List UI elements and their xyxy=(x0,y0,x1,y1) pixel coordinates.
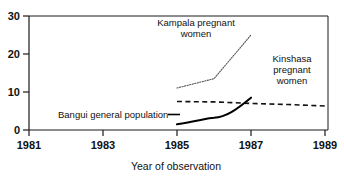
y-tick-label-30: 30 xyxy=(8,10,20,22)
annotation-bangui-line1: Bangui general population xyxy=(58,109,168,120)
x-axis-ticks xyxy=(29,130,325,136)
annotation-bangui: Bangui general population xyxy=(58,109,180,120)
chart-figure: 0 10 20 30 1981 1983 1985 1987 1989 Year… xyxy=(0,0,344,177)
annotation-kampala-line2: women xyxy=(180,28,212,39)
x-tick-label-1981: 1981 xyxy=(17,139,41,151)
x-axis-title: Year of observation xyxy=(131,160,221,172)
annotation-kinshasa-line2: pregnant xyxy=(273,64,311,75)
annotation-kampala: Kampala pregnant women xyxy=(157,17,235,39)
x-tick-label-1987: 1987 xyxy=(239,139,263,151)
y-axis-ticks xyxy=(23,16,29,130)
annotation-kinshasa-line1: Kinshasa xyxy=(272,53,312,64)
series-line-kampala xyxy=(177,35,251,88)
line-chart: 0 10 20 30 1981 1983 1985 1987 1989 Year… xyxy=(0,0,344,177)
x-tick-label-1989: 1989 xyxy=(313,139,337,151)
y-tick-label-20: 20 xyxy=(8,48,20,60)
series-line-kinshasa xyxy=(177,102,325,107)
x-tick-label-1983: 1983 xyxy=(91,139,115,151)
annotation-kampala-line1: Kampala pregnant xyxy=(157,17,235,28)
x-axis-tick-labels: 1981 1983 1985 1987 1989 xyxy=(17,139,337,151)
annotation-kinshasa-line3: women xyxy=(276,75,308,86)
x-tick-label-1985: 1985 xyxy=(165,139,189,151)
y-tick-label-0: 0 xyxy=(14,124,20,136)
y-axis-tick-labels: 0 10 20 30 xyxy=(8,10,20,136)
annotation-kinshasa: Kinshasa pregnant women xyxy=(272,53,312,86)
y-tick-label-10: 10 xyxy=(8,86,20,98)
